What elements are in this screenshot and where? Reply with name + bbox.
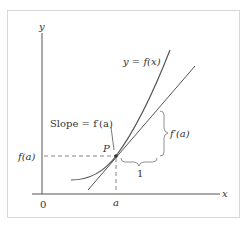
slope-label: Slope = f′(a) [50,118,113,129]
run-label: 1 [137,168,143,179]
rise-brace [160,111,168,156]
fa-label: f(a) [17,151,36,162]
x-axis-label: x [222,188,228,199]
slope-pointer [111,127,114,150]
point-p-label: P [102,143,110,154]
point-p [114,154,118,158]
tangent-line-diagram: y x 0 y = f(x) Slope = f′(a) P f(a) a 1 … [0,0,246,227]
a-label: a [113,197,119,208]
curve-f [71,50,170,180]
y-axis-label: y [38,21,45,32]
curve-label: y = f(x) [122,56,161,67]
run-brace [121,158,157,166]
origin-label: 0 [40,199,46,210]
rise-label: f′(a) [169,128,190,139]
